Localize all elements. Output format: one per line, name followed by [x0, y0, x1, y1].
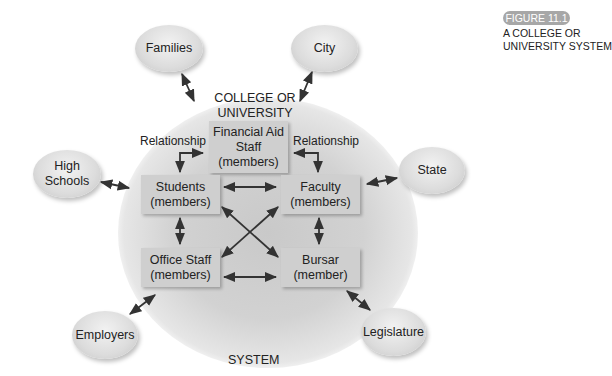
arrow-high-schools [101, 182, 129, 188]
arrow-families [182, 74, 194, 101]
arrow-relationship-right [294, 153, 318, 172]
arrows-layer [0, 0, 612, 376]
arrow-city [300, 72, 312, 101]
arrow-legislature [347, 291, 370, 310]
arrow-state [367, 178, 397, 184]
arrow-relationship-left [180, 153, 203, 172]
arrow-employers [130, 295, 155, 314]
